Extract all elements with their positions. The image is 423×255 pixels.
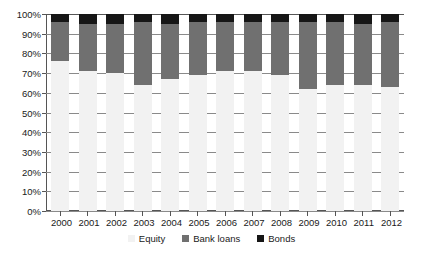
bar-column[interactable]: [79, 14, 97, 211]
y-axis-tick-label: 10%: [5, 186, 41, 197]
x-axis-tick-mark: [189, 211, 207, 216]
legend-swatch-icon: [257, 235, 264, 242]
plot-area: 100%90%80%70%60%50%40%30%20%10%0%: [46, 14, 404, 211]
x-axis-tick-mark: [381, 211, 399, 216]
bar-segment[interactable]: [299, 14, 317, 22]
bar-column[interactable]: [216, 14, 234, 211]
bar-segment[interactable]: [244, 14, 262, 22]
legend-item[interactable]: Bank loans: [182, 233, 240, 244]
bar-segment[interactable]: [106, 24, 124, 73]
x-axis-tick-mark: [134, 211, 152, 216]
legend-swatch-icon: [182, 235, 189, 242]
bar-column[interactable]: [161, 14, 179, 211]
x-axis-tick-mark: [326, 211, 344, 216]
x-axis-tick-mark: [161, 211, 179, 216]
bar-segment[interactable]: [106, 73, 124, 211]
bar-segment[interactable]: [326, 85, 344, 211]
x-axis-tick-label: 2009: [299, 217, 317, 228]
legend-label: Equity: [139, 233, 165, 244]
bar-segment[interactable]: [326, 14, 344, 22]
legend-label: Bank loans: [193, 233, 240, 244]
y-axis-tick-label: 90%: [5, 28, 41, 39]
bar-segment[interactable]: [244, 22, 262, 71]
bar-segment[interactable]: [299, 89, 317, 211]
y-axis-tick-label: 0%: [5, 206, 41, 217]
bar-segment[interactable]: [51, 14, 69, 22]
y-axis-tick-label: 70%: [5, 68, 41, 79]
x-axis-tick-label: 2010: [326, 217, 344, 228]
x-axis-tick-mark: [106, 211, 124, 216]
x-axis-tick-label: 2004: [161, 217, 179, 228]
legend-item[interactable]: Equity: [128, 233, 165, 244]
chart-legend: EquityBank loansBonds: [0, 233, 423, 244]
x-axis-tick-label: 2008: [271, 217, 289, 228]
x-axis-tick-mark: [354, 211, 372, 216]
bar-segment[interactable]: [106, 14, 124, 24]
bar-group: [46, 14, 404, 211]
bar-segment[interactable]: [79, 24, 97, 71]
y-axis-tick-label: 30%: [5, 146, 41, 157]
x-axis-tick-label: 2012: [381, 217, 399, 228]
bar-segment[interactable]: [244, 71, 262, 211]
x-axis-tick-mark: [51, 211, 69, 216]
y-axis-tick-label: 20%: [5, 166, 41, 177]
bar-segment[interactable]: [134, 85, 152, 211]
bar-column[interactable]: [244, 14, 262, 211]
bar-segment[interactable]: [271, 14, 289, 22]
x-axis-tick-label: 2002: [106, 217, 124, 228]
bar-segment[interactable]: [354, 14, 372, 24]
bar-column[interactable]: [381, 14, 399, 211]
x-axis-tick-label: 2005: [189, 217, 207, 228]
bar-column[interactable]: [271, 14, 289, 211]
bar-segment[interactable]: [381, 87, 399, 211]
bar-column[interactable]: [189, 14, 207, 211]
bar-column[interactable]: [299, 14, 317, 211]
x-axis-tick-label: 2006: [216, 217, 234, 228]
bar-segment[interactable]: [134, 14, 152, 22]
x-axis-tick-label: 2011: [354, 217, 372, 228]
x-axis-labels: 2000200120022003200420052006200720082009…: [46, 217, 404, 228]
legend-label: Bonds: [268, 233, 295, 244]
bar-segment[interactable]: [189, 22, 207, 75]
bar-segment[interactable]: [299, 22, 317, 89]
x-axis-tick-mark: [79, 211, 97, 216]
bar-segment[interactable]: [326, 22, 344, 85]
bar-segment[interactable]: [161, 14, 179, 24]
bar-segment[interactable]: [189, 75, 207, 211]
bar-segment[interactable]: [79, 14, 97, 24]
y-axis-tick-label: 80%: [5, 48, 41, 59]
bar-column[interactable]: [106, 14, 124, 211]
bar-segment[interactable]: [271, 75, 289, 211]
bar-segment[interactable]: [354, 85, 372, 211]
bar-segment[interactable]: [216, 14, 234, 22]
bar-column[interactable]: [354, 14, 372, 211]
x-axis-tick-label: 2001: [79, 217, 97, 228]
bar-segment[interactable]: [216, 71, 234, 211]
bar-column[interactable]: [134, 14, 152, 211]
x-axis-tick-label: 2007: [244, 217, 262, 228]
bar-segment[interactable]: [354, 24, 372, 85]
legend-item[interactable]: Bonds: [257, 233, 295, 244]
legend-swatch-icon: [128, 235, 135, 242]
bar-segment[interactable]: [216, 22, 234, 71]
x-axis-tick-label: 2000: [51, 217, 69, 228]
bar-column[interactable]: [51, 14, 69, 211]
bar-segment[interactable]: [134, 22, 152, 85]
bar-segment[interactable]: [51, 22, 69, 61]
bar-segment[interactable]: [189, 14, 207, 22]
x-axis-ticks: [46, 211, 404, 216]
bar-segment[interactable]: [51, 61, 69, 211]
bar-segment[interactable]: [161, 79, 179, 211]
y-axis-tick-label: 50%: [5, 107, 41, 118]
bar-segment[interactable]: [381, 14, 399, 22]
bar-segment[interactable]: [381, 22, 399, 87]
x-axis: 2000200120022003200420052006200720082009…: [46, 211, 404, 231]
x-axis-tick-mark: [244, 211, 262, 216]
bar-segment[interactable]: [79, 71, 97, 211]
bar-column[interactable]: [326, 14, 344, 211]
bar-segment[interactable]: [161, 24, 179, 79]
bar-segment[interactable]: [271, 22, 289, 75]
x-axis-tick-mark: [299, 211, 317, 216]
y-axis-tick-label: 100%: [5, 9, 41, 20]
y-axis-tick-label: 60%: [5, 87, 41, 98]
